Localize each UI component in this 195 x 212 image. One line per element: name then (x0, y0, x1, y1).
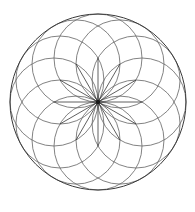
rosette-figure (0, 0, 195, 212)
center-dot (96, 100, 100, 104)
center-dot-group (96, 100, 100, 104)
figure-canvas (0, 0, 195, 212)
